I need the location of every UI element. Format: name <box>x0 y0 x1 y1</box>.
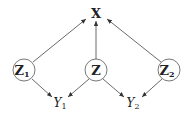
edge-z2-y2 <box>142 79 162 97</box>
node-z: Z <box>85 59 107 81</box>
node-z2: Z2 <box>158 59 180 81</box>
node-x: X <box>91 6 102 21</box>
node-y2: Y2 <box>126 96 139 111</box>
edge-z2-x <box>107 19 161 62</box>
edge-z-y1 <box>68 79 89 97</box>
node-y1-label: Y1 <box>53 96 66 111</box>
node-y1: Y1 <box>53 96 66 111</box>
edge-z-y2 <box>103 79 124 97</box>
node-y2-label: Y2 <box>126 96 139 111</box>
node-z1: Z1 <box>13 59 35 81</box>
edge-z1-x <box>33 19 86 62</box>
causal-diagram: X Z1 Z Z2 Y1 Y2 <box>0 0 188 117</box>
node-x-label: X <box>91 6 102 21</box>
edge-z1-y1 <box>32 79 52 97</box>
node-z-label: Z <box>91 63 101 78</box>
